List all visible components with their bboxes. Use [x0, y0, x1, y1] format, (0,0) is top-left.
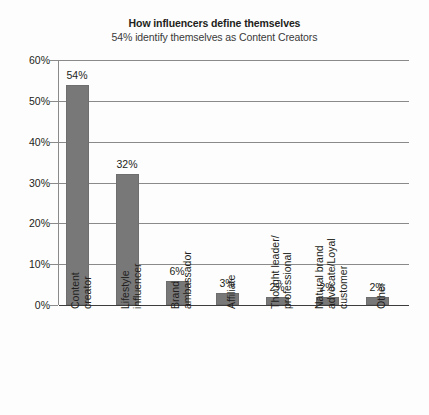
x-axis-label-line: customer: [337, 238, 349, 309]
y-axis-tick-mark: [50, 142, 58, 143]
plot-area: 54%32%6%3%2%2%2%: [58, 60, 409, 305]
y-axis-tick-label: 40%: [4, 137, 50, 147]
y-axis-tick-mark: [50, 60, 58, 61]
y-axis-tick-label: 50%: [4, 96, 50, 106]
y-axis-tick-mark: [50, 223, 58, 224]
chart-title: How influencers define themselves: [0, 16, 429, 30]
gridline: [59, 142, 409, 143]
x-axis-label-line: Thought leader/: [269, 235, 281, 309]
x-axis-label-line: influencer: [131, 263, 143, 309]
gridline: [59, 223, 409, 224]
y-axis-tick-label: 30%: [4, 178, 50, 188]
x-axis-label-line: Natural brand: [313, 238, 325, 309]
y-axis-tick-label: 0%: [4, 300, 50, 310]
y-axis-tick-mark: [50, 101, 58, 102]
gridline: [59, 183, 409, 184]
y-axis-tick-mark: [50, 183, 58, 184]
x-axis-label-line: advocate/Loyal: [325, 238, 337, 309]
y-axis-tick-mark: [50, 264, 58, 265]
x-axis-label-line: Content: [69, 272, 81, 309]
x-axis-label-line: creator: [81, 272, 93, 309]
x-axis-label-line: professional: [281, 235, 293, 309]
chart-header: How influencers define themselves 54% id…: [0, 16, 429, 44]
gridline: [59, 60, 409, 61]
bar-value-label: 54%: [50, 70, 104, 81]
y-axis-tick-label: 20%: [4, 218, 50, 228]
chart-subtitle: 54% identify themselves as Content Creat…: [0, 30, 429, 44]
y-axis-tick-label: 60%: [4, 55, 50, 65]
x-axis-label-line: Affiliate: [225, 275, 237, 309]
gridline: [59, 264, 409, 265]
y-axis-tick-mark: [50, 305, 58, 306]
gridline: [59, 101, 409, 102]
x-axis-label-line: Lifestyle: [119, 263, 131, 309]
bar-value-label: 32%: [100, 159, 154, 170]
x-axis-label-line: ambassador: [181, 251, 193, 309]
x-axis-label-line: Other: [375, 283, 387, 309]
x-axis-label-line: Brand: [169, 251, 181, 309]
y-axis-tick-label: 10%: [4, 259, 50, 269]
bar-chart: How influencers define themselves 54% id…: [0, 0, 429, 415]
